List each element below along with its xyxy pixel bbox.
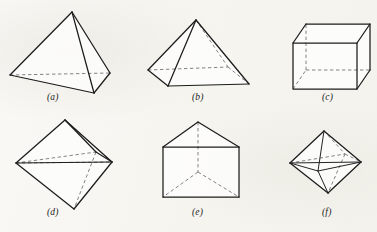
figure-caption-a: (a): [47, 92, 59, 102]
figure-caption-e: (e): [192, 207, 203, 217]
octahedron-face-fill: [16, 120, 112, 209]
figure-a-tetrahedron: [10, 12, 110, 93]
figure-c-cube: [293, 24, 370, 89]
figure-caption-c: (c): [322, 92, 333, 102]
tetrahedron-face-fill: [10, 12, 94, 93]
cube-face-fill-front: [293, 43, 357, 89]
prism-face-fill-front: [163, 147, 239, 197]
polyhedra-diagram: [0, 0, 377, 232]
figure-b-square-pyramid: [148, 20, 249, 86]
figure-e-triangular-prism: [163, 122, 239, 197]
figure-plate: (a) (b) (c) (d) (e) (f): [0, 0, 377, 232]
figure-caption-f: (f): [322, 207, 332, 217]
figure-caption-b: (b): [192, 92, 204, 102]
figure-caption-d: (d): [47, 207, 59, 217]
figure-d-octahedron: [16, 120, 112, 209]
figure-f-octahedron: [290, 131, 361, 193]
prism-face-fill-top: [163, 122, 239, 147]
